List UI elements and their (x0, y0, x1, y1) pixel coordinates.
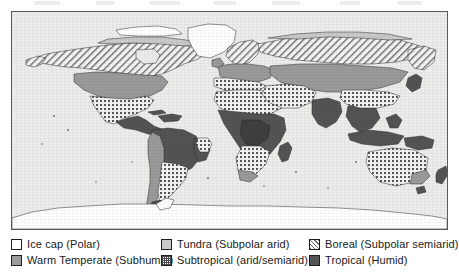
legend-item-subtropical[interactable]: Subtropical (arid/semiarid) (161, 252, 309, 268)
scan-artifact (214, 1, 236, 5)
legend-label-tundra: Tundra (Subpolar arid) (177, 238, 289, 250)
subtropical-swatch-icon (161, 255, 172, 266)
legend-label-warm-temperate: Warm Temperate (Subhumid) (27, 254, 173, 266)
scan-artifact (398, 1, 422, 5)
tropical-swatch-icon (309, 255, 320, 266)
world-map-graphic (12, 12, 447, 229)
legend-row: Ice cap (Polar) Tundra (Subpolar arid) B… (11, 236, 451, 252)
scan-artifact (96, 1, 114, 5)
legend-item-tundra[interactable]: Tundra (Subpolar arid) (161, 236, 309, 252)
world-map-panel (11, 11, 448, 230)
legend-label-ice-cap: Ice cap (Polar) (27, 238, 100, 250)
boreal-swatch-icon (309, 239, 320, 250)
legend-label-tropical: Tropical (Humid) (325, 254, 407, 266)
scan-artifact (272, 1, 300, 5)
scan-artifact (150, 1, 180, 5)
legend-row: Warm Temperate (Subhumid) Subtropical (a… (11, 252, 451, 268)
legend-label-subtropical: Subtropical (arid/semiarid) (177, 254, 308, 266)
map-legend: Ice cap (Polar) Tundra (Subpolar arid) B… (11, 236, 451, 270)
legend-label-boreal: Boreal (Subpolar semiarid) (325, 238, 458, 250)
scan-artifact (34, 1, 60, 5)
scan-artifacts (0, 0, 459, 10)
legend-item-warm-temperate[interactable]: Warm Temperate (Subhumid) (11, 252, 161, 268)
tundra-swatch-icon (161, 239, 172, 250)
ice-cap-swatch-icon (11, 239, 22, 250)
legend-item-tropical[interactable]: Tropical (Humid) (309, 252, 451, 268)
warm-temperate-swatch-icon (11, 255, 22, 266)
legend-item-ice-cap[interactable]: Ice cap (Polar) (11, 236, 161, 252)
legend-item-boreal[interactable]: Boreal (Subpolar semiarid) (309, 236, 451, 252)
scan-artifact (340, 1, 360, 5)
